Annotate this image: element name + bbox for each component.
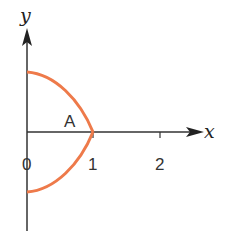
x-axis-label: x xyxy=(204,120,215,142)
curve-upper xyxy=(27,72,93,132)
tick-label-2: 2 xyxy=(155,155,164,174)
region-label: A xyxy=(64,112,76,131)
curve-lower xyxy=(27,132,93,192)
tick-label-0: 0 xyxy=(22,155,31,174)
diagram-canvas: y x 0 1 2 A xyxy=(0,0,230,231)
y-axis-label: y xyxy=(19,4,31,26)
tick-label-1: 1 xyxy=(88,155,97,174)
